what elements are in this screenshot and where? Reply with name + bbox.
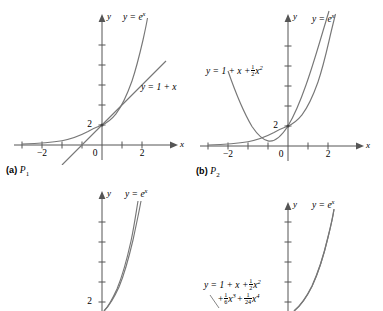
panel-d-curve-quartic — [294, 210, 334, 311]
panel-b-plot — [192, 0, 383, 165]
figure-root: y = ex y = 1 + x y x −2 0 2 2 (a) P1 — [0, 0, 383, 311]
panel-b-label-quadratic: y = 1 + x +12x2 — [206, 64, 263, 77]
panel-b-xtick-0: 0 — [274, 149, 288, 159]
panel-a-x-axis-label: x — [180, 139, 184, 149]
panel-a-caption: (a) P1 — [6, 165, 29, 178]
panel-c: y = ex y 2 — [0, 185, 192, 311]
panel-a-caption-sub: 1 — [26, 170, 30, 178]
panel-a-xtick-neg2: −2 — [32, 148, 52, 158]
panel-a-y-axis-label: y — [107, 11, 111, 21]
panel-d-y-axis — [285, 202, 292, 311]
panel-d-curve-exponential — [294, 209, 334, 311]
panel-b-xtick-neg2: −2 — [218, 149, 238, 159]
panel-a-ytick-2: 2 — [83, 119, 96, 129]
panel-a-xtick-2: 2 — [135, 148, 149, 158]
panel-a-caption-tag: (a) — [6, 165, 17, 175]
panel-c-y-axis — [99, 191, 106, 311]
panel-d-label-quartic-line2: +16x3+124x4 — [218, 292, 260, 305]
panel-d: y = ex y y = 1 + x +12x2 +16x3+124x4 — [192, 196, 383, 311]
panel-c-label-exponential: y = ex — [125, 188, 147, 200]
panel-b-xtick-2: 2 — [321, 149, 335, 159]
panel-c-ytick-2: 2 — [83, 296, 96, 306]
panel-d-label-exponential: y = ex — [312, 199, 334, 211]
panel-a-tangency-point — [100, 123, 103, 126]
panel-c-y-axis-label: y — [107, 188, 111, 198]
panel-b-caption-sub: 2 — [216, 171, 220, 179]
panel-b-y-axis — [285, 14, 292, 161]
panel-b: y = ex y = 1 + x +12x2 y x −2 0 2 2 — [192, 0, 383, 165]
panel-c-plot — [0, 185, 192, 311]
panel-d-fraction-one-twentyfourth: 124 — [244, 292, 251, 305]
panel-b-x-axis-label: x — [366, 140, 370, 150]
panel-a-label-exponential: y = ex — [123, 11, 145, 23]
panel-d-y-axis-label: y — [293, 199, 297, 209]
panel-b-ytick-2: 2 — [269, 120, 282, 130]
panel-a-label-linear: y = 1 + x — [141, 83, 177, 93]
panel-a: y = ex y = 1 + x y x −2 0 2 2 — [0, 0, 192, 165]
panel-a-curve-linear — [62, 61, 166, 165]
panel-b-y-axis-label: y — [293, 11, 297, 21]
panel-b-caption-tag: (b) — [196, 166, 208, 176]
panel-b-label-exponential: y = ex — [312, 13, 334, 25]
panel-d-label-quartic-line1: y = 1 + x +12x2 — [204, 278, 261, 291]
panel-a-y-axis — [99, 14, 106, 160]
panel-c-curve-exponential — [104, 201, 138, 311]
panel-a-xtick-0: 0 — [88, 148, 102, 158]
panel-b-caption: (b) P2 — [196, 166, 220, 179]
panel-b-tangency-point — [286, 124, 289, 127]
